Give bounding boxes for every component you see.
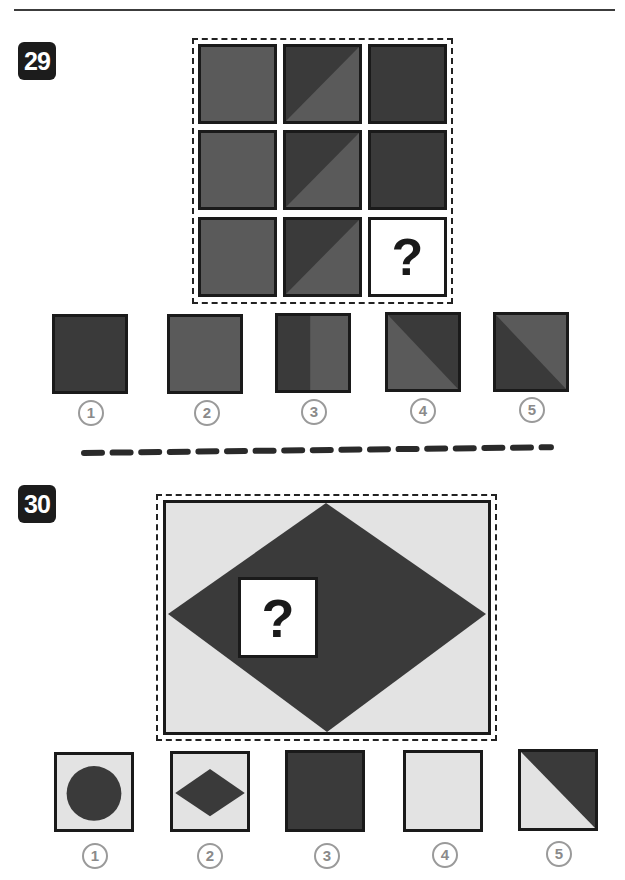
puzzle-29-cell-r2c3 (368, 130, 447, 210)
puzzle-30-option-3[interactable] (285, 750, 365, 832)
puzzle-30-missing-piece: ? (238, 577, 318, 658)
puzzle-29-cell-r3c1 (198, 217, 277, 297)
puzzle-30-option-4-label: 4 (432, 842, 458, 868)
puzzle-29-cell-r1c2 (283, 44, 362, 124)
page-header-text (250, 0, 490, 5)
puzzle-29-option-1[interactable] (52, 314, 128, 394)
puzzle-29-option-3[interactable] (275, 313, 351, 393)
puzzle-29-cell-r1c1 (198, 44, 277, 124)
puzzle-29-number-badge: 29 (18, 42, 56, 80)
puzzle-29-missing-cell: ? (368, 217, 447, 297)
puzzle-30-option-2-label: 2 (197, 843, 223, 869)
puzzle-29-cell-r3c2 (283, 217, 362, 297)
puzzle-29-option-3-label: 3 (301, 399, 327, 425)
puzzle-30-figure (163, 500, 491, 735)
puzzle-30-option-5[interactable] (518, 749, 598, 831)
puzzle-29-option-4[interactable] (385, 312, 461, 392)
puzzle-29-option-1-label: 1 (78, 400, 104, 426)
puzzle-30-diamond-shape (166, 503, 488, 732)
puzzle-29-option-5[interactable] (493, 312, 569, 392)
puzzle-29-option-2-label: 2 (194, 400, 220, 426)
puzzle-30-option-4[interactable] (403, 750, 483, 832)
question-mark-icon: ? (392, 231, 424, 283)
question-mark-icon: ? (262, 591, 295, 645)
puzzle-30-option-1-label: 1 (82, 843, 108, 869)
puzzle-29-cell-r2c1 (198, 130, 277, 210)
puzzle-30-option-2[interactable] (170, 751, 250, 832)
puzzle-30-option-5-label: 5 (546, 841, 572, 867)
puzzle-30-option-3-label: 3 (314, 843, 340, 869)
puzzle-29-option-5-label: 5 (519, 397, 545, 423)
puzzle-29-option-4-label: 4 (410, 398, 436, 424)
puzzle-30-option-1[interactable] (54, 752, 134, 832)
puzzle-29-cell-r1c3 (368, 44, 447, 124)
header-rule (14, 9, 615, 11)
section-divider (80, 443, 555, 457)
puzzle-30-number-badge: 30 (18, 485, 56, 523)
puzzle-29-option-2[interactable] (167, 314, 243, 394)
puzzle-29-cell-r2c2 (283, 130, 362, 210)
